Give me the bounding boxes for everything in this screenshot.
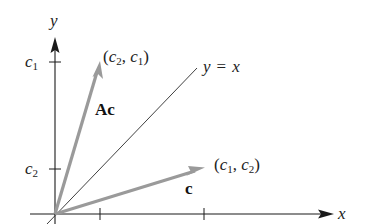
vector-ac-point-label: (c2, c1) bbox=[103, 47, 149, 67]
vector-ac-label: Ac bbox=[95, 100, 115, 119]
x-axis-label: x bbox=[337, 204, 346, 223]
y-tick-label-c2: c2 bbox=[25, 159, 38, 179]
vector-c-arrow-icon bbox=[186, 166, 205, 176]
line-y-equals-x bbox=[47, 68, 197, 224]
y-tick-label-c1: c1 bbox=[25, 52, 38, 72]
vector-c-point-label: (c1, c2) bbox=[214, 155, 260, 175]
vector-c-label: c bbox=[185, 179, 193, 198]
y-axis-label: y bbox=[48, 11, 58, 30]
vector-c: c (c1, c2) bbox=[55, 155, 260, 214]
y-axis: y c1 c2 bbox=[25, 11, 61, 224]
reflection-diagram: x y c1 c2 c (c1, c2) Ac (c2, c1) y=x bbox=[0, 0, 377, 224]
line-y-equals-x-label: y=x bbox=[201, 57, 240, 76]
